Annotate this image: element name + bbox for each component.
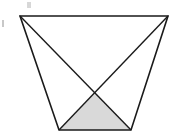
shaded-triangle [59,93,131,130]
double-tick-mark [28,2,30,8]
trapezoid-diagram [0,0,173,136]
